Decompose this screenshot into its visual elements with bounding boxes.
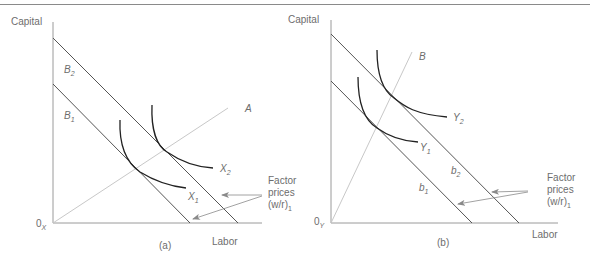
factor-price-arrow-a-lower [193,196,262,219]
capital-axis-label-b: Capital [288,14,319,25]
budget-label-b2: B2 [64,64,75,77]
isoquant-x1 [120,120,186,188]
origin-label-b: 0Y [314,216,326,229]
ray-label-a: A [244,103,252,114]
isoquant-diagram: Capital Labor 0X A B2 B1 X2 X1 Factor pr… [0,0,590,260]
budget-label-b2-lower: b2 [451,165,461,178]
panel-a: Capital Labor 0X A B2 B1 X2 X1 Factor pr… [11,16,299,251]
labor-axis-label-a: Labor [212,236,238,247]
panel-caption-a: (a) [159,240,171,251]
factor-prices-label-b: Factor prices [547,172,578,195]
isoquant-y2 [377,50,447,117]
budget-label-b1: B1 [64,110,75,123]
isoquant-y1 [358,77,418,142]
budget-line-b2 [53,38,238,223]
factor-prices-ratio-b: (w/r)1 [547,196,571,209]
budget-line-b1-lower [331,81,472,223]
isoquant-label-y1: Y1 [420,142,431,155]
factor-prices-label-a: Factor prices [268,175,299,198]
isoquant-label-y2: Y2 [453,112,464,125]
panel-caption-b: (b) [437,237,449,248]
budget-label-b1-lower: b1 [419,182,429,195]
ray-label-b: B [419,51,426,62]
isoquant-label-x1: X1 [187,191,199,204]
factor-prices-ratio-a: (w/r)1 [268,199,292,212]
isoquant-label-x2: X2 [219,163,231,176]
factor-price-arrow-b-upper [492,191,528,192]
isoquant-x2 [152,105,213,168]
capital-axis-label-a: Capital [11,16,42,27]
origin-label-a: 0X [36,218,47,231]
labor-axis-label-b: Labor [532,229,558,240]
factor-price-arrow-b-lower [458,192,528,204]
panel-b: Capital Labor 0Y B b2 b1 Y2 Y1 Factor pr… [288,14,578,248]
expansion-ray-b [331,52,412,223]
